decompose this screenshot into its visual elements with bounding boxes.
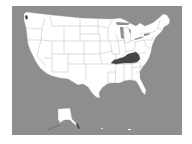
us-map [12,6,182,135]
us-map-svg [12,6,182,135]
contiguous-us-landmass [24,12,170,98]
state-alaska[interactable] [58,108,78,126]
alaska-panhandle [76,123,80,129]
hawaii-inset [101,128,131,130]
hawaii-islands [128,129,131,130]
state-hawaii[interactable] [101,128,103,129]
alaska-inset [48,108,80,130]
alaska-islands [48,125,60,130]
